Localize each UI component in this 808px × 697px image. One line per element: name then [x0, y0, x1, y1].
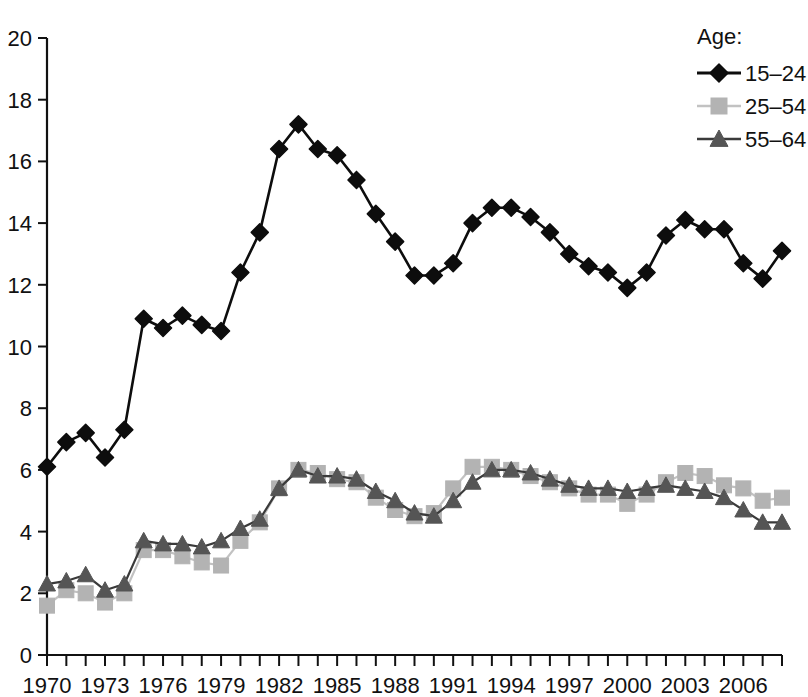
x-tick-label: 1991	[429, 673, 478, 697]
chart-legend: Age:15–2425–5455–64	[697, 24, 806, 152]
y-tick-label: 4	[20, 520, 32, 545]
y-tick-label: 0	[20, 643, 32, 668]
y-tick-label: 16	[8, 149, 32, 174]
x-tick-label: 1985	[313, 673, 362, 697]
legend-entry-label: 15–24	[745, 61, 806, 86]
data-point-diamond	[116, 421, 133, 438]
data-point-square	[465, 459, 480, 474]
x-tick-label: 2006	[719, 673, 768, 697]
x-tick-label: 1979	[197, 673, 246, 697]
y-tick-label: 8	[20, 396, 32, 421]
data-point-square	[775, 490, 790, 505]
series-15-24	[39, 116, 791, 475]
x-tick-label: 1973	[81, 673, 130, 697]
chart-canvas: 02468101214161820 1970197319761979198219…	[0, 0, 808, 697]
legend-entry-1[interactable]: 15–24	[697, 61, 806, 86]
data-point-square	[736, 481, 751, 496]
x-tick-label: 1970	[23, 673, 72, 697]
data-point-square	[697, 469, 712, 484]
y-tick-label: 14	[8, 211, 32, 236]
data-point-diamond	[503, 199, 520, 216]
data-point-triangle	[213, 532, 230, 547]
data-point-diamond	[774, 242, 791, 259]
data-point-diamond	[580, 258, 597, 275]
legend-entry-label: 55–64	[745, 127, 806, 152]
x-tick-label: 1988	[371, 673, 420, 697]
x-tick-label: 1982	[255, 673, 304, 697]
data-point-diamond	[387, 233, 404, 250]
data-point-square	[40, 598, 55, 613]
data-point-diamond	[213, 323, 230, 340]
y-tick-label: 12	[8, 273, 32, 298]
x-tick-label: 1976	[139, 673, 188, 697]
data-point-diamond	[715, 221, 732, 238]
data-point-triangle	[464, 474, 481, 489]
data-point-square	[678, 465, 693, 480]
data-point-diamond	[367, 205, 384, 222]
line-chart: 02468101214161820 1970197319761979198219…	[0, 0, 808, 697]
x-tick-label: 2000	[603, 673, 652, 697]
x-tick-label: 1994	[487, 673, 536, 697]
y-tick-label: 2	[20, 581, 32, 606]
data-point-diamond	[174, 307, 191, 324]
data-point-diamond	[425, 267, 442, 284]
data-point-triangle	[77, 566, 94, 581]
data-point-triangle	[387, 492, 404, 507]
x-tick-label: 2003	[661, 673, 710, 697]
legend-entry-3[interactable]: 55–64	[697, 127, 806, 152]
data-point-triangle	[135, 532, 152, 547]
data-point-square	[78, 586, 93, 601]
data-point-square	[194, 555, 209, 570]
y-axis: 02468101214161820	[8, 26, 47, 668]
series-line	[47, 124, 782, 466]
legend-entry-2[interactable]: 25–54	[697, 94, 806, 119]
data-point-square	[214, 558, 229, 573]
data-point-diamond	[406, 267, 423, 284]
legend-entry-label: 25–54	[745, 94, 806, 119]
data-series-group	[39, 116, 791, 613]
data-point-diamond	[696, 221, 713, 238]
data-point-diamond	[135, 310, 152, 327]
series-25-54	[40, 459, 790, 613]
series-55-64	[39, 461, 791, 597]
x-tick-label: 1997	[545, 673, 594, 697]
data-point-triangle	[232, 520, 249, 535]
data-point-diamond	[251, 224, 268, 241]
data-point-diamond	[710, 64, 728, 82]
data-point-diamond	[232, 264, 249, 281]
data-point-diamond	[155, 319, 172, 336]
data-point-diamond	[193, 316, 210, 333]
data-point-square	[711, 98, 727, 114]
y-tick-label: 6	[20, 458, 32, 483]
data-point-triangle	[735, 502, 752, 517]
data-point-square	[755, 493, 770, 508]
y-tick-label: 10	[8, 335, 32, 360]
y-tick-label: 20	[8, 26, 32, 51]
x-axis: 1970197319761979198219851988199119941997…	[23, 655, 782, 697]
y-tick-label: 18	[8, 88, 32, 113]
legend-title: Age:	[697, 24, 742, 49]
data-point-diamond	[445, 255, 462, 272]
